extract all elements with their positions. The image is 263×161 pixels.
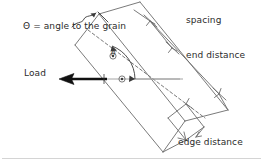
theta-definition-label: Θ = angle to the grain	[23, 21, 126, 31]
diagram-canvas: Θ = angle to the grain Load θ spacing en…	[0, 0, 263, 161]
edge-distance-label: edge distance	[178, 137, 243, 147]
member-inner-line	[75, 45, 163, 152]
end-distance-label: end distance	[186, 50, 245, 60]
member-end-left	[99, 2, 140, 14]
spacing-label: spacing	[186, 15, 221, 25]
theta-symbol-label: θ	[111, 50, 115, 58]
spacing-dimension	[134, 10, 179, 54]
end-distance-dimension	[150, 21, 228, 110]
load-label: Load	[24, 68, 46, 78]
angle-arc-icon	[104, 46, 135, 84]
